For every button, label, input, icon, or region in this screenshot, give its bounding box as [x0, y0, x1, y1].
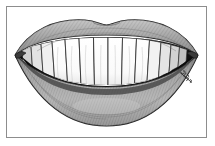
tooth-5 [65, 38, 81, 86]
artwork-frame: Smiling Mouth close-up of a smiling mout… [0, 0, 215, 146]
smile-illustration [7, 7, 206, 137]
tooth-6 [79, 37, 95, 88]
lower-lip-highlight [73, 98, 141, 114]
